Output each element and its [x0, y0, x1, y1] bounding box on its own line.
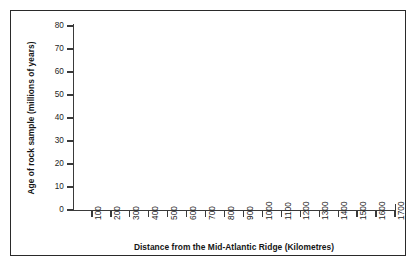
- x-tick-label-1700: 1700: [398, 201, 406, 220]
- x-tick-1300: [319, 211, 320, 218]
- x-tick-label-800: 800: [228, 206, 236, 220]
- x-tick-200: [110, 211, 111, 218]
- x-tick-label-300: 300: [133, 206, 141, 220]
- plot-area: [73, 26, 395, 210]
- x-tick-1000: [262, 211, 263, 218]
- x-tick-400: [148, 211, 149, 218]
- x-tick-label-400: 400: [152, 206, 160, 220]
- x-tick-700: [205, 211, 206, 218]
- x-tick-label-1000: 1000: [266, 201, 274, 220]
- x-tick-1600: [375, 211, 376, 218]
- x-axis-end-cap: [395, 204, 396, 211]
- y-tick-label-0: 0: [24, 206, 64, 214]
- x-tick-label-1600: 1600: [379, 201, 387, 220]
- x-tick-label-900: 900: [247, 206, 255, 220]
- y-tick-80: [67, 25, 74, 26]
- y-tick-60: [67, 71, 74, 72]
- x-tick-1700: [394, 211, 395, 218]
- figure-container: 01020304050607080 1002003004005006007008…: [0, 0, 420, 269]
- x-tick-label-1200: 1200: [303, 201, 311, 220]
- y-tick-0: [67, 209, 74, 210]
- x-tick-label-1500: 1500: [360, 201, 368, 220]
- y-tick-70: [67, 48, 74, 49]
- x-tick-800: [224, 211, 225, 218]
- y-tick-30: [67, 140, 74, 141]
- y-tick-label-80: 80: [24, 22, 64, 30]
- x-tick-label-700: 700: [209, 206, 217, 220]
- x-tick-label-600: 600: [190, 206, 198, 220]
- x-tick-label-200: 200: [114, 206, 122, 220]
- y-axis-title: Age of rock sample (millions of years): [26, 41, 36, 194]
- x-tick-1200: [300, 211, 301, 218]
- x-tick-label-100: 100: [95, 206, 103, 220]
- y-tick-50: [67, 94, 74, 95]
- x-axis-title: Distance from the Mid-Atlantic Ridge (Ki…: [73, 242, 395, 252]
- x-tick-100: [91, 211, 92, 218]
- x-tick-500: [167, 211, 168, 218]
- x-tick-300: [129, 211, 130, 218]
- y-tick-10: [67, 186, 74, 187]
- x-tick-1400: [338, 211, 339, 218]
- x-tick-label-1300: 1300: [322, 201, 330, 220]
- x-tick-1100: [281, 211, 282, 218]
- x-tick-1500: [356, 211, 357, 218]
- x-tick-600: [186, 211, 187, 218]
- x-tick-label-500: 500: [171, 206, 179, 220]
- x-tick-label-1100: 1100: [285, 202, 293, 220]
- y-tick-40: [67, 117, 74, 118]
- x-tick-900: [243, 211, 244, 218]
- x-tick-label-1400: 1400: [341, 201, 349, 220]
- y-tick-20: [67, 163, 74, 164]
